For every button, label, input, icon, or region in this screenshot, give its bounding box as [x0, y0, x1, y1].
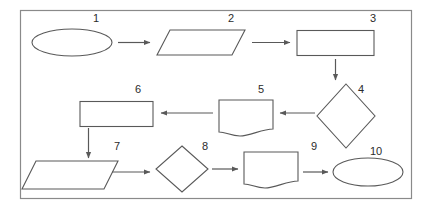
- shape-3-rectangle: [297, 31, 374, 56]
- shape-7-parallelogram: [22, 161, 118, 189]
- label-node-6: 6: [135, 83, 141, 95]
- label-node-10: 10: [370, 145, 382, 157]
- label-node-4: 4: [358, 83, 364, 95]
- shape-2-parallelogram: [157, 30, 245, 55]
- shape-5-document: [219, 100, 273, 136]
- label-node-7: 7: [114, 140, 120, 152]
- label-node-8: 8: [202, 140, 208, 152]
- label-node-2: 2: [228, 12, 234, 24]
- shape-1-ellipse: [32, 29, 112, 56]
- label-node-1: 1: [93, 12, 99, 24]
- flowchart-canvas: 1 2 3 4 5 6 7 8 9 10: [0, 0, 428, 212]
- label-node-5: 5: [258, 83, 264, 95]
- label-node-9: 9: [311, 140, 317, 152]
- shape-10-ellipse: [333, 158, 403, 186]
- label-node-3: 3: [370, 12, 376, 24]
- shape-6-rectangle: [80, 102, 153, 127]
- shape-9-document: [244, 152, 298, 188]
- flowchart-diagram: 1 2 3 4 5 6 7 8 9 10: [0, 0, 428, 212]
